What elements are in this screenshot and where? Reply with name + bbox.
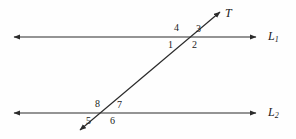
angle-label-8: 8 — [95, 99, 100, 109]
angle-label-5: 5 — [86, 116, 91, 126]
figure-canvas — [0, 0, 296, 139]
angle-label-1: 1 — [168, 40, 173, 50]
angle-label-2: 2 — [192, 40, 197, 50]
line-label-t: T — [225, 7, 232, 19]
line-label-l2: L2 — [268, 106, 279, 118]
line-label-l1: L1 — [268, 30, 279, 42]
angle-label-6: 6 — [110, 116, 115, 126]
angle-label-7: 7 — [117, 100, 122, 110]
angle-label-4: 4 — [174, 23, 179, 33]
line-label-l2-subscript: 2 — [275, 111, 279, 120]
angle-label-3: 3 — [196, 24, 201, 34]
line-label-l2-text: L — [268, 105, 275, 119]
line-label-l1-text: L — [268, 29, 275, 43]
geometry-figure: L1 L2 T 1 2 3 4 5 6 7 8 — [0, 0, 296, 139]
line-label-l1-subscript: 1 — [275, 35, 279, 44]
